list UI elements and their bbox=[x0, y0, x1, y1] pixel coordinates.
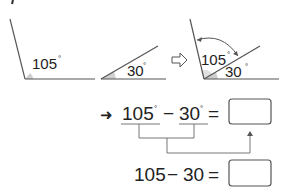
svg-text:−: − bbox=[163, 103, 174, 124]
equation2-operand-b: 30 bbox=[183, 164, 204, 185]
svg-text:°: ° bbox=[154, 104, 157, 113]
figure-105-angle: 105 ° bbox=[10, 19, 95, 79]
angle-diagram: 105 ° 30 ° 105 ° 30 ° ➜ 105 ° − 30 ° = bbox=[0, 0, 282, 194]
equation2-operand-a: 105 bbox=[134, 164, 166, 185]
equation1-operand-a: 105 bbox=[122, 103, 154, 124]
answer-box-1[interactable] bbox=[229, 99, 271, 124]
svg-text:°: ° bbox=[227, 50, 230, 59]
figure2-angle-label: 30 bbox=[127, 62, 144, 79]
answer-box-2[interactable] bbox=[229, 160, 271, 186]
svg-text:=: = bbox=[208, 164, 219, 185]
svg-text:°: ° bbox=[58, 54, 61, 63]
hollow-arrow-icon bbox=[172, 53, 187, 67]
figure1-angle-label: 105 bbox=[32, 55, 57, 72]
svg-text:=: = bbox=[208, 103, 219, 124]
svg-text:°: ° bbox=[143, 61, 146, 70]
figure-combined-angle: 105 ° 30 ° bbox=[190, 19, 279, 80]
svg-text:°: ° bbox=[245, 62, 248, 71]
connector-lines bbox=[121, 124, 253, 153]
svg-text:−: − bbox=[167, 164, 178, 185]
figure3-big-angle-label: 105 bbox=[201, 51, 226, 68]
svg-text:°: ° bbox=[200, 104, 203, 113]
figure-30-angle: 30 ° bbox=[101, 46, 166, 79]
equation1-operand-b: 30 bbox=[179, 103, 200, 124]
corner-mark bbox=[12, 0, 13, 4]
figure3-small-angle-label: 30 bbox=[225, 63, 242, 80]
right-arrow-icon: ➜ bbox=[100, 106, 113, 123]
equation-degrees: ➜ 105 ° − 30 ° = bbox=[100, 99, 271, 124]
equation-numbers: 105 − 30 = bbox=[134, 160, 271, 186]
